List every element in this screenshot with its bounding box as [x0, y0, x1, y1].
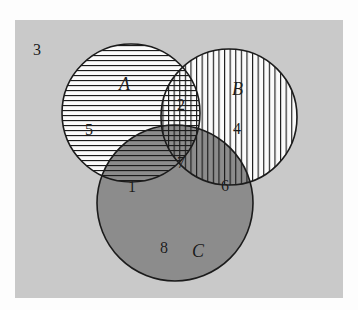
venn-diagram-svg: [0, 0, 358, 310]
figure-canvas: A B C 3 5 2 4 1 7 6 8: [0, 0, 358, 310]
region-fill-a-and-b-and-c: [0, 0, 358, 310]
venn-region-fills: [0, 0, 358, 310]
